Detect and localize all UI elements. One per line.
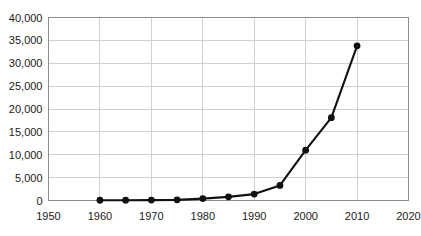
- y-tick-label: 25,000: [9, 80, 43, 92]
- chart-canvas: 05,00010,00015,00020,00025,00030,00035,0…: [0, 0, 421, 236]
- y-tick-label: 10,000: [9, 149, 43, 161]
- x-tick-label: 1950: [36, 210, 60, 222]
- y-tick-label: 35,000: [9, 34, 43, 46]
- x-tick-label: 1980: [191, 210, 215, 222]
- data-point-marker: [122, 197, 129, 204]
- data-point-marker: [354, 42, 361, 49]
- y-tick-label: 15,000: [9, 126, 43, 138]
- y-tick-label: 0: [36, 195, 42, 207]
- x-tick-label: 1990: [242, 210, 266, 222]
- data-point-marker: [251, 191, 258, 198]
- x-tick-label: 1960: [88, 210, 112, 222]
- x-tick-label: 2010: [345, 210, 369, 222]
- x-tick-label: 2000: [293, 210, 317, 222]
- line-chart: 05,00010,00015,00020,00025,00030,00035,0…: [0, 0, 421, 236]
- data-point-marker: [174, 196, 181, 203]
- y-tick-label: 30,000: [9, 57, 43, 69]
- data-point-marker: [225, 193, 232, 200]
- y-tick-label: 40,000: [9, 12, 43, 24]
- data-point-marker: [97, 197, 104, 204]
- x-tick-label: 1970: [139, 210, 163, 222]
- data-point-marker: [148, 197, 155, 204]
- y-tick-label: 5,000: [15, 172, 43, 184]
- data-point-marker: [302, 147, 309, 154]
- x-tick-label: 2020: [396, 210, 420, 222]
- data-point-marker: [328, 114, 335, 121]
- y-tick-label: 20,000: [9, 103, 43, 115]
- data-point-marker: [199, 195, 206, 202]
- data-point-marker: [277, 182, 284, 189]
